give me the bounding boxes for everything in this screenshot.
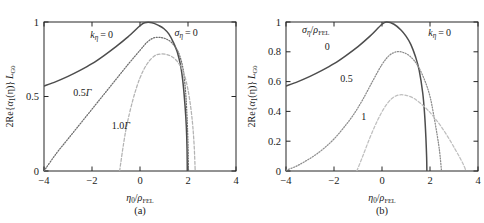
y-tick-label: 0.5 bbox=[26, 91, 39, 102]
y-tick-label: 0.6 bbox=[268, 76, 281, 87]
tick-labels: −4−202400.20.40.60.81 bbox=[268, 17, 482, 186]
y-tick-label: 0.4 bbox=[268, 106, 282, 117]
curve-label-0p5: 0.5 bbox=[340, 73, 353, 84]
data-curves bbox=[44, 22, 195, 171]
x-tick-label: −4 bbox=[38, 175, 50, 186]
y-tick-label: 0 bbox=[276, 166, 281, 177]
x-tick-label: 0 bbox=[379, 175, 384, 186]
series-curve bbox=[357, 95, 466, 171]
plot-frame bbox=[286, 22, 478, 171]
x-axis-title: η0/ρFEL bbox=[126, 192, 154, 205]
curve-label-1: 1 bbox=[361, 111, 366, 122]
plot-panel-b: −4−202400.20.40.60.81ση/ρFELkη = 000.51η… bbox=[242, 0, 484, 223]
x-axis-title: η0/ρFEL bbox=[368, 192, 396, 205]
series-curve bbox=[286, 22, 427, 171]
sigma-eta-over-rho: ση/ρFEL bbox=[302, 24, 330, 37]
x-tick-label: 4 bbox=[475, 175, 481, 186]
x-tick-label: −2 bbox=[86, 175, 97, 186]
series-curve bbox=[44, 22, 187, 171]
y-tick-label: 1 bbox=[276, 17, 281, 28]
y-tick-label: 1 bbox=[34, 17, 39, 28]
y-tick-label: 0.8 bbox=[268, 46, 281, 57]
series-curve bbox=[44, 37, 188, 171]
curve-label-1p0gamma: 1.0Γ bbox=[112, 120, 131, 131]
y-tick-label: 0.2 bbox=[268, 136, 281, 147]
panel-caption: (b) bbox=[376, 205, 389, 217]
plot-panel-a: −4−202400.51kη = 0ση = 00.5Γ1.0Γη0/ρFEL2… bbox=[0, 0, 242, 223]
panel-caption: (a) bbox=[134, 205, 146, 217]
x-tick-label: −4 bbox=[280, 175, 292, 186]
x-tick-label: 4 bbox=[233, 175, 239, 186]
curve-label-0p5gamma: 0.5Γ bbox=[73, 87, 92, 98]
figure-container: −4−202400.51kη = 0ση = 00.5Γ1.0Γη0/ρFEL2… bbox=[0, 0, 484, 223]
curve-label-0: 0 bbox=[325, 41, 330, 52]
x-tick-label: 2 bbox=[427, 175, 432, 186]
k-eta-zero: kη = 0 bbox=[428, 27, 451, 40]
x-tick-label: 0 bbox=[137, 175, 142, 186]
sigma-eta-zero: ση = 0 bbox=[174, 27, 197, 40]
x-tick-label: 2 bbox=[185, 175, 190, 186]
y-axis-title: 2Re{α1(η)} LG0 bbox=[246, 66, 259, 128]
x-tick-label: −2 bbox=[328, 175, 339, 186]
axis-ticks bbox=[286, 22, 478, 171]
y-tick-label: 0 bbox=[34, 166, 39, 177]
data-curves bbox=[286, 22, 466, 171]
k-eta-zero: kη = 0 bbox=[90, 29, 113, 42]
y-axis-title: 2Re{α1(η)} LG0 bbox=[4, 66, 17, 128]
